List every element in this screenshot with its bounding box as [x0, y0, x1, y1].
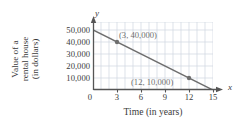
point-annotation-3-40000: (3, 40,000)	[119, 31, 157, 40]
line-chart-figure: Value of a rental house (in dollars) 50,…	[0, 0, 241, 125]
x-tick-label-6: 6	[139, 92, 143, 102]
x-axis-letter: x	[228, 82, 232, 92]
x-tick-label-0: 0	[88, 92, 92, 102]
x-tick-label-15: 15	[209, 92, 218, 102]
x-tick-label-3: 3	[115, 92, 119, 102]
y-axis-letter: y	[95, 8, 99, 18]
point-annotation-12-10000: (12, 10,000)	[131, 78, 173, 87]
x-axis-title: Time (in years)	[93, 106, 213, 117]
x-tick-label-9: 9	[163, 92, 167, 102]
x-axis-tick-labels: 0 3 6 9 12 15	[0, 92, 241, 104]
x-tick-label-12: 12	[185, 92, 194, 102]
